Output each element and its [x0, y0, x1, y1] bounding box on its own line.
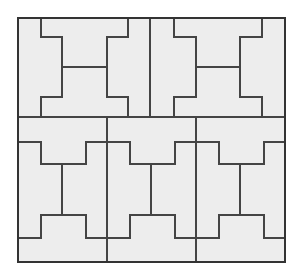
- tiling-figure: [0, 0, 300, 280]
- tiling-diagram: [0, 0, 300, 280]
- frame-fill: [18, 18, 285, 262]
